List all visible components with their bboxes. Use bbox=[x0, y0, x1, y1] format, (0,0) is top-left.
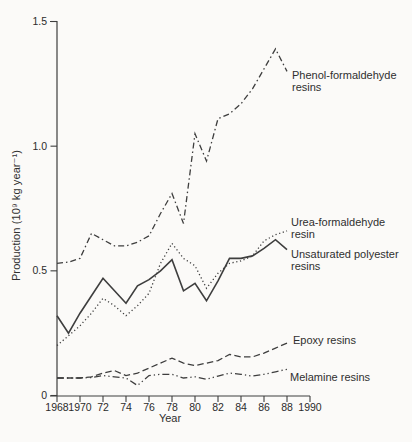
series-label-melamine-resins: Melamine resins bbox=[290, 371, 370, 383]
y-tick-label: 0 bbox=[41, 389, 47, 401]
x-tick-label: 82 bbox=[212, 401, 224, 413]
y-tick-label: 1.5 bbox=[32, 15, 47, 27]
series-line-phenol-formaldehyde-resins bbox=[57, 49, 287, 264]
series-line-unsaturated-polyester-resins bbox=[57, 240, 287, 334]
resin-production-chart: 00.51.01.5196819707274767880828486881990… bbox=[0, 0, 412, 442]
series-label-phenol-formaldehyde-resins: Phenol-formaldehyde resins bbox=[292, 69, 397, 94]
x-axis-title: Year bbox=[145, 412, 195, 424]
series-line-epoxy-resins bbox=[57, 343, 287, 378]
x-tick-label: 1968 bbox=[45, 401, 69, 413]
y-axis-title: Production (10⁹ kg year⁻¹) bbox=[10, 134, 27, 298]
series-label-epoxy-resins: Epoxy resins bbox=[293, 334, 356, 346]
x-tick-label: 1970 bbox=[68, 401, 92, 413]
series-label-urea-formaldehyde-resin: Urea-formaldehyde resin bbox=[291, 216, 385, 241]
x-tick-label: 74 bbox=[120, 401, 132, 413]
x-tick-label: 88 bbox=[281, 401, 293, 413]
y-tick-label: 0.5 bbox=[32, 264, 47, 276]
series-line-urea-formaldehyde-resin bbox=[57, 231, 287, 346]
x-tick-label: 1990 bbox=[298, 401, 322, 413]
y-tick-label: 1.0 bbox=[32, 140, 47, 152]
series-label-unsaturated-polyester-resins: Unsaturated polyester resins bbox=[291, 248, 399, 273]
x-tick-label: 84 bbox=[235, 401, 247, 413]
x-tick-label: 86 bbox=[258, 401, 270, 413]
axes bbox=[50, 22, 310, 397]
x-tick-label: 72 bbox=[97, 401, 109, 413]
